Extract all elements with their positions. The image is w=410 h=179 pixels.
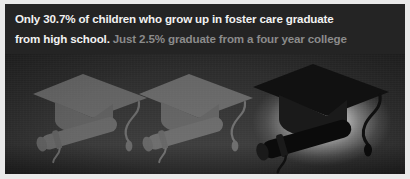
headline-band: Only 30.7% of children who grow up in fo…	[5, 4, 405, 54]
foster-care-education-infographic: Only 30.7% of children who grow up in fo…	[0, 0, 410, 179]
headline-line-2-strong-text: from high school.	[15, 32, 110, 45]
infographic-panel: Only 30.7% of children who grow up in fo…	[5, 4, 405, 174]
faded-graduation-cap-icon-2	[133, 60, 261, 168]
headline-line-1: Only 30.7% of children who grow up in fo…	[15, 9, 395, 29]
headline-line-1-text: Only 30.7% of children who grow up in fo…	[15, 12, 334, 25]
highlighted-graduation-cap-icon	[249, 54, 399, 174]
graduation-photo	[5, 54, 405, 174]
headline-line-2: from high school. Just 2.5% graduate fro…	[15, 29, 395, 49]
headline-line-2-muted-text: Just 2.5% graduate from a four year coll…	[113, 32, 347, 45]
